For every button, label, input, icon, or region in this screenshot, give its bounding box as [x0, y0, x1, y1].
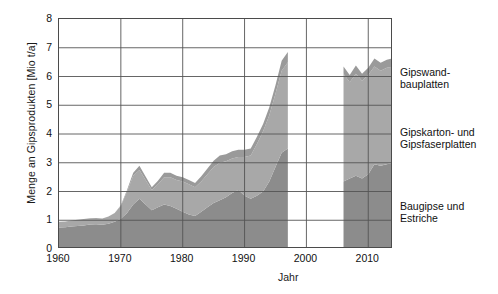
legend-item-baugipse: Baugipse und Estriche	[400, 200, 464, 225]
y-tick-label: 8	[6, 13, 52, 23]
y-tick-label: 5	[6, 99, 52, 109]
y-tick-label: 3	[6, 157, 52, 167]
area-chart-svg	[59, 19, 392, 248]
legend-label-line1: Gipswand-	[400, 66, 450, 78]
y-tick-label: 4	[6, 128, 52, 138]
legend-label-line1: Baugipse und	[400, 200, 464, 212]
x-axis-title: Jahr	[278, 271, 298, 283]
legend-label-line1: Gipskarton- und	[400, 126, 476, 138]
x-tick-label: 1980	[162, 252, 202, 264]
band-gipskarton	[344, 66, 392, 181]
legend-label-line2: Gipsfaserplatten	[400, 138, 476, 150]
chart-figure: Menge an Gipsprodukten [Mio t/a] 8765432…	[0, 0, 498, 294]
y-tick-label: 7	[6, 42, 52, 52]
y-tick-label: 6	[6, 71, 52, 81]
x-tick-label: 2010	[347, 252, 387, 264]
x-tick-label: 1990	[224, 252, 264, 264]
legend-label-line2: bauplatten	[400, 78, 450, 90]
legend-item-gipswandbauplatten: Gipswand- bauplatten	[400, 66, 450, 91]
plot-area	[58, 18, 392, 248]
legend-item-gipskartonplatten: Gipskarton- und Gipsfaserplatten	[400, 126, 476, 151]
x-tick-label: 2000	[285, 252, 325, 264]
y-tick-label: 2	[6, 186, 52, 196]
x-tick-label: 1970	[100, 252, 140, 264]
y-tick-label: 1	[6, 214, 52, 224]
y-axis-ticks: 876543210	[0, 0, 52, 294]
legend-label-line2: Estriche	[400, 212, 464, 224]
x-tick-label: 1960	[38, 252, 78, 264]
